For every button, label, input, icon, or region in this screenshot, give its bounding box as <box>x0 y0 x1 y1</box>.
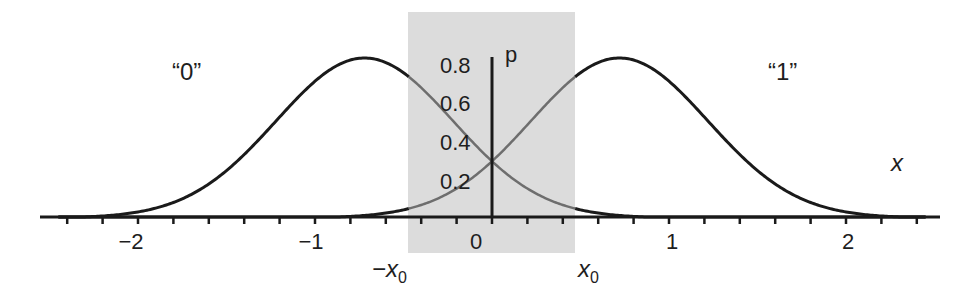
curve-1 <box>575 58 925 217</box>
class-1-label: “1” <box>768 58 797 85</box>
x-axis-label: x <box>890 149 904 176</box>
x-tick-label-minus1: −1 <box>298 229 323 254</box>
pos-x0-label: x0 <box>577 255 599 286</box>
y-tick-label-0.4: 0.4 <box>440 130 471 155</box>
y-tick-label-0.8: 0.8 <box>440 53 471 78</box>
class-0-label: “0” <box>172 58 201 85</box>
neg-x0-label: −x0 <box>372 255 407 286</box>
y-tick-label-0.2: 0.2 <box>440 169 471 194</box>
curve-0 <box>58 58 408 217</box>
y-axis-label: p <box>505 42 517 67</box>
x-tick-label-1: 1 <box>666 229 678 254</box>
x-tick-label-0: 0 <box>470 229 482 254</box>
chart: 0.8 0.6 0.4 0.2 p −2 −1 0 1 2 −x0 x0 “0”… <box>0 0 975 306</box>
x-tick-label-2: 2 <box>842 229 854 254</box>
y-tick-label-0.6: 0.6 <box>440 91 471 116</box>
x-tick-label-minus2: −2 <box>118 229 143 254</box>
